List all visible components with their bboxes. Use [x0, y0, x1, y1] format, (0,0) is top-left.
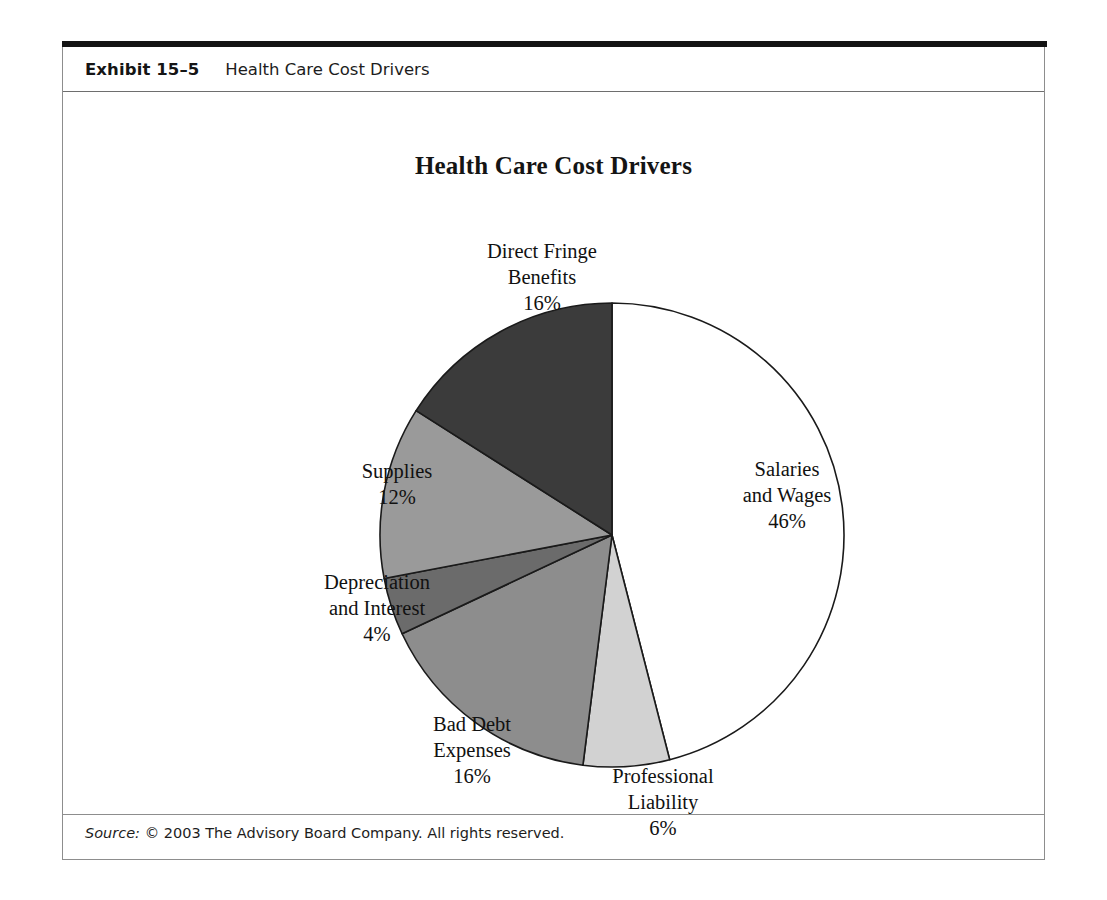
pie-label-line-2: Benefits — [447, 265, 637, 291]
pie-label-professional-liability: Professional Liability 6% — [553, 764, 773, 841]
pie-label-line-1: Salaries — [677, 457, 897, 483]
pie-label-line-1: Direct Fringe — [447, 239, 637, 265]
pie-label-line-2: Liability — [553, 790, 773, 816]
pie-label-line-1: Supplies — [317, 459, 477, 485]
exhibit-header: Exhibit 15–5 Health Care Cost Drivers — [63, 47, 1044, 91]
pie-label-percent: 16% — [377, 764, 567, 790]
pie-label-percent: 12% — [317, 485, 477, 511]
source-label: Source: — [85, 825, 140, 841]
pie-slice-group — [380, 303, 844, 767]
pie-label-percent: 6% — [553, 816, 773, 842]
pie-chart-svg — [63, 92, 1046, 814]
pie-label-percent: 46% — [677, 509, 897, 535]
pie-label-line-1: Professional — [553, 764, 773, 790]
pie-label-salaries-and-wages: Salaries and Wages 46% — [677, 457, 897, 534]
pie-label-supplies: Supplies 12% — [317, 459, 477, 511]
pie-label-depreciation-and-interest: Depreciation and Interest 4% — [277, 570, 477, 647]
chart-area: Health Care Cost Drivers Direct Fringe B… — [63, 92, 1044, 814]
exhibit-caption: Health Care Cost Drivers — [225, 60, 429, 79]
source-text: © 2003 The Advisory Board Company. All r… — [145, 825, 565, 841]
pie-label-percent: 4% — [277, 622, 477, 648]
pie-label-percent: 16% — [447, 291, 637, 317]
exhibit-number: Exhibit 15–5 — [85, 60, 199, 79]
exhibit-box: Exhibit 15–5 Health Care Cost Drivers He… — [62, 47, 1045, 860]
pie-label-line-2: and Interest — [277, 596, 477, 622]
pie-label-line-1: Depreciation — [277, 570, 477, 596]
pie-label-bad-debt-expenses: Bad Debt Expenses 16% — [377, 712, 567, 789]
pie-label-line-2: and Wages — [677, 483, 897, 509]
pie-label-line-2: Expenses — [377, 738, 567, 764]
source-divider — [63, 814, 1044, 815]
pie-chart — [63, 92, 1044, 814]
pie-label-line-1: Bad Debt — [377, 712, 567, 738]
exhibit-figure: Exhibit 15–5 Health Care Cost Drivers He… — [0, 0, 1107, 900]
pie-label-direct-fringe-benefits: Direct Fringe Benefits 16% — [447, 239, 637, 316]
source-note: Source: © 2003 The Advisory Board Compan… — [85, 825, 564, 841]
